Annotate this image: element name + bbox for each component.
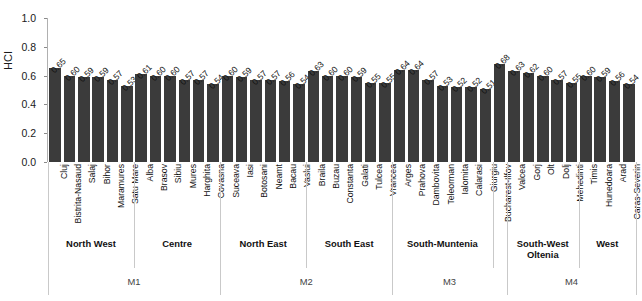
category-label: Iasi [245, 164, 255, 178]
bar-value-label: 0.64 [407, 58, 426, 77]
category-label: Suceava [231, 164, 241, 198]
region-divider [48, 162, 49, 268]
bar [207, 84, 218, 162]
macroregion-label: M3 [392, 276, 507, 287]
bar [193, 80, 204, 162]
bar [250, 80, 261, 162]
y-tick-label: 0.8 [21, 41, 36, 53]
bar [222, 76, 233, 162]
category-label: Gorj [532, 164, 542, 180]
category-label: Brasov [159, 164, 169, 191]
region-label: South-Muntenia [392, 238, 492, 249]
bar [322, 76, 333, 162]
y-tick-label: 0.6 [21, 70, 36, 82]
y-tick-mark [44, 162, 47, 163]
category-label: Buzau [331, 164, 341, 189]
region-divider [134, 162, 135, 268]
chart-container: HCI 1.00.80.60.40.20.0 0.650.600.590.590… [0, 0, 642, 301]
category-label: Olt [546, 164, 556, 175]
category-label: Teleorman [446, 164, 456, 205]
bar [107, 80, 118, 162]
region-label: North East [220, 238, 306, 249]
bar [508, 71, 519, 162]
y-tick-label: 1.0 [21, 12, 36, 24]
category-label: Maramures [116, 164, 126, 208]
category-label: Hunedoara [604, 164, 614, 207]
bar [308, 71, 319, 162]
bar [551, 80, 562, 162]
region-divider [392, 162, 393, 268]
bar [150, 76, 161, 162]
category-label: Bihor [102, 164, 112, 184]
bar [179, 80, 190, 162]
bar [494, 64, 505, 162]
bar [135, 74, 146, 162]
bar [451, 87, 462, 162]
category-label: Dambovita [431, 164, 441, 206]
bar [78, 77, 89, 162]
category-label: Bistrita-Nasaud [73, 164, 83, 223]
category-label: Arges [403, 164, 413, 187]
category-label: Braila [317, 164, 327, 186]
macroregion-divider [220, 255, 221, 295]
category-label: Salaj [87, 164, 97, 183]
bar [566, 83, 577, 162]
y-tick-mark [44, 133, 47, 134]
region-label: Centre [134, 238, 220, 249]
y-tick-mark [44, 47, 47, 48]
category-label: Neamt [274, 164, 284, 190]
bar [422, 80, 433, 162]
y-tick-label: 0.0 [21, 156, 36, 168]
category-labels: ClujBistrita-NasaudSalajBihorMaramuresSa… [48, 164, 636, 236]
bar [49, 68, 60, 162]
plot-area: 0.650.600.590.590.570.530.610.600.600.57… [48, 18, 636, 162]
macroregion-label: M1 [48, 276, 220, 287]
bar [408, 70, 419, 162]
category-label: Constanta [345, 164, 355, 204]
bar [64, 76, 75, 162]
region-label: West [579, 238, 636, 249]
category-label: Satu Mare [130, 164, 140, 204]
macroregion-label: M4 [507, 276, 636, 287]
bar [523, 73, 534, 162]
category-label: Prahova [417, 164, 427, 196]
region-divider [507, 162, 508, 268]
category-label: Mehedinti [575, 164, 585, 202]
bar [121, 86, 132, 162]
bar [164, 76, 175, 162]
category-label: Dolj [561, 164, 571, 179]
category-label: Covasna [216, 164, 226, 198]
category-label: Harghita [202, 164, 212, 197]
y-tick-mark [44, 76, 47, 77]
category-label: Alba [145, 164, 155, 181]
category-label: Timis [589, 164, 599, 184]
region-divider [636, 162, 637, 268]
macroregion-divider [48, 255, 49, 295]
category-label: Bacau [288, 164, 298, 189]
region-divider [579, 162, 580, 268]
y-tick-label: 0.4 [21, 98, 36, 110]
category-label: Vrancea [388, 164, 398, 196]
category-label: Botosani [259, 164, 269, 198]
category-label: Bucharest-Ilfov [503, 164, 513, 222]
bar [279, 81, 290, 162]
category-label: Ialomita [460, 164, 470, 194]
region-label: South-WestOltenia [507, 238, 579, 260]
region-divider [306, 162, 307, 268]
y-tick-mark [44, 104, 47, 105]
bar [480, 89, 491, 162]
macroregion-divider [392, 255, 393, 295]
bar [336, 76, 347, 162]
y-axis-ticks: 1.00.80.60.40.20.0 [0, 0, 44, 301]
y-tick-label: 0.2 [21, 127, 36, 139]
bar [379, 83, 390, 162]
bar [537, 76, 548, 162]
category-label: Caras-Severin [632, 164, 642, 220]
bar [236, 77, 247, 162]
bar [365, 83, 376, 162]
category-label: Sibiu [173, 164, 183, 183]
category-label: Galati [360, 164, 370, 187]
category-label: Tulcea [374, 164, 384, 190]
category-label: Cluj [59, 164, 69, 179]
bar [265, 80, 276, 162]
